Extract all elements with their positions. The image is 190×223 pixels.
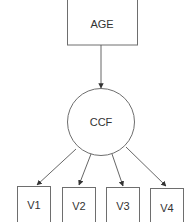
ccf-label: CCF (90, 116, 113, 128)
age-label: AGE (90, 18, 113, 30)
node-v2: V2 (63, 188, 96, 223)
v2-label: V2 (72, 200, 85, 212)
node-v4: V4 (151, 189, 184, 223)
edge-ccf-v4 (126, 147, 166, 186)
edge-ccf-v2 (79, 154, 91, 185)
node-ccf: CCF (68, 89, 135, 156)
edge-ccf-v3 (112, 154, 123, 186)
v3-label: V3 (116, 200, 129, 212)
node-v1: V1 (18, 187, 51, 223)
edge-ccf-v1 (37, 149, 76, 185)
v1-label: V1 (27, 199, 40, 211)
v4-label: V4 (160, 202, 173, 214)
node-v3: V3 (107, 188, 140, 223)
node-age: AGE (68, 0, 138, 45)
path-diagram: AGE CCF V1 V2 V3 V4 (0, 0, 190, 222)
